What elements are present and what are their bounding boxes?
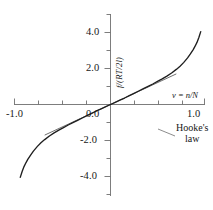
x-tick-label-left: -1.0 xyxy=(6,108,23,119)
y-tick-label-neg4: -4.0 xyxy=(80,170,97,181)
y-tick-label-4: 4.0 xyxy=(86,26,99,37)
y-tick-label-neg2: -2.0 xyxy=(80,134,97,145)
x-axis-label: v = n/N xyxy=(172,90,198,100)
hookes-law-annotation: Hooke's law xyxy=(176,123,208,144)
figure-container: -1.0 0.0 1.0 4.0 2.0 -2.0 -4.0 v = n/N f… xyxy=(0,0,213,210)
plot-canvas xyxy=(0,0,213,210)
hookes-law-leader-line xyxy=(158,129,175,136)
y-axis-label: f/(RT/2l) xyxy=(114,57,124,88)
x-tick-label-right: 1.0 xyxy=(187,108,200,119)
hookes-law-line1: Hooke's xyxy=(176,122,208,133)
y-tick-label-2: 2.0 xyxy=(86,62,99,73)
hookes-law-line2: law xyxy=(176,134,208,145)
x-tick-label-center: 0.0 xyxy=(86,108,99,119)
